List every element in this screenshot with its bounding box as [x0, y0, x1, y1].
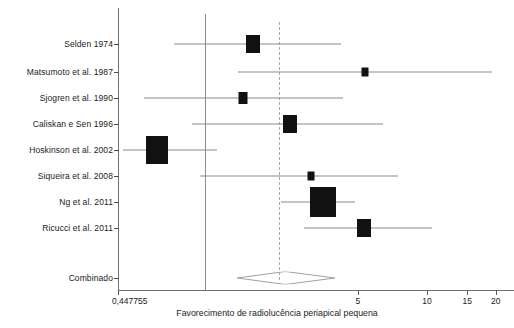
y-axis-tick-pooled [114, 278, 119, 279]
study-label: Matsumoto et al. 1987 [27, 67, 113, 77]
effect-estimate-marker [310, 187, 336, 217]
pooled-effect-diamond [238, 272, 336, 285]
y-axis-tick [114, 228, 119, 229]
study-label: Hoskinson et al. 2002 [29, 145, 113, 155]
pooled-label: Combinado [69, 273, 113, 283]
y-axis-tick [114, 176, 119, 177]
effect-estimate-marker [361, 68, 368, 77]
study-label: Selden 1974 [64, 39, 113, 49]
x-axis-title: Favorecimento de radiolucência periapica… [176, 308, 377, 318]
y-axis-tick [114, 150, 119, 151]
x-axis-tick-label: 15 [462, 296, 471, 306]
effect-estimate-marker [146, 136, 168, 164]
x-axis-tick-label: 5 [356, 296, 361, 306]
y-axis-tick [114, 98, 119, 99]
effect-estimate-marker [308, 172, 315, 181]
study-label: Sjogren et al. 1990 [40, 93, 113, 103]
x-axis-tick [118, 290, 119, 295]
effect-estimate-marker [283, 115, 297, 133]
x-axis-tick-label: 20 [491, 296, 500, 306]
x-axis-spine [118, 290, 514, 291]
y-axis-spine [118, 8, 119, 290]
x-axis-tick [496, 290, 497, 295]
y-axis-tick [114, 44, 119, 45]
study-label: Ng et al. 2011 [59, 197, 113, 207]
study-label: Caliskan e Sen 1996 [33, 119, 113, 129]
y-axis-tick [114, 72, 119, 73]
x-axis-tick [427, 290, 428, 295]
forest-plot: Selden 1974Matsumoto et al. 1987Sjogren … [0, 0, 514, 328]
effect-estimate-marker [246, 35, 260, 53]
study-label: Siqueira et al. 2008 [38, 171, 113, 181]
y-axis-tick [114, 202, 119, 203]
x-axis-tick [358, 290, 359, 295]
x-axis-tick-label: 10 [422, 296, 431, 306]
x-axis-tick-label: 0,447755 [112, 296, 147, 306]
pooled-effect-line [279, 22, 280, 280]
confidence-interval-line [200, 176, 398, 177]
effect-estimate-marker [357, 219, 371, 237]
y-axis-tick [114, 124, 119, 125]
x-axis-tick [467, 290, 468, 295]
null-effect-line [205, 14, 206, 290]
effect-estimate-marker [238, 92, 247, 104]
confidence-interval-line [123, 150, 217, 151]
study-label: Ricucci et al. 2011 [42, 223, 113, 233]
